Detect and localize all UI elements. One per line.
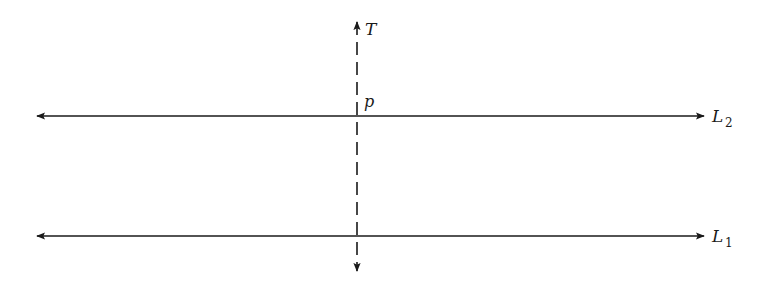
label-l2: L (711, 106, 723, 126)
label-l2-subscript: 2 (725, 116, 733, 130)
label-point-p: p (364, 92, 374, 111)
label-l1-subscript: 1 (725, 236, 733, 250)
label-t: T (365, 19, 378, 39)
diagram-canvas: T p L 2 L 1 (0, 0, 767, 285)
label-l1: L (711, 226, 723, 246)
